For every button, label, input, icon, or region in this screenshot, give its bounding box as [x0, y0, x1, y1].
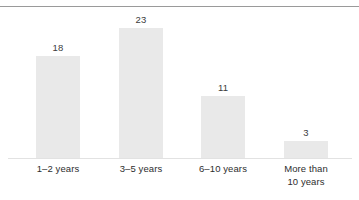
bar-3-5-years[interactable] — [119, 28, 163, 158]
category-label-1-2-years: 1–2 years — [12, 163, 104, 176]
bar-group-3-5-years: 23 — [100, 0, 182, 159]
category-label-line-1: 6–10 years — [199, 163, 247, 174]
bar-more-than-10-years[interactable] — [284, 141, 328, 158]
category-label-3-5-years: 3–5 years — [95, 163, 187, 176]
category-label-line-1: More than — [284, 163, 328, 174]
category-label-6-10-years: 6–10 years — [177, 163, 269, 176]
category-label-line-1: 1–2 years — [37, 163, 80, 174]
bar-group-6-10-years: 11 — [182, 0, 264, 159]
bar-group-1-2-years: 18 — [17, 0, 99, 159]
bar-6-10-years[interactable] — [201, 96, 245, 158]
x-axis-baseline — [8, 158, 352, 159]
value-label-more-than-10-years: 3 — [265, 127, 347, 138]
bar-chart-figure: 18 23 11 3 1–2 years 3–5 years 6–10 year… — [0, 0, 359, 200]
bars-container: 18 23 11 3 — [0, 0, 359, 159]
category-label-line-2: 10 years — [260, 176, 352, 189]
bar-1-2-years[interactable] — [36, 56, 80, 158]
value-label-3-5-years: 23 — [100, 14, 182, 25]
category-label-line-1: 3–5 years — [120, 163, 163, 174]
value-label-1-2-years: 18 — [17, 42, 99, 53]
bar-group-more-than-10-years: 3 — [265, 0, 347, 159]
value-label-6-10-years: 11 — [182, 82, 264, 93]
category-label-more-than-10-years: More than 10 years — [260, 163, 352, 188]
category-axis-labels: 1–2 years 3–5 years 6–10 years More than… — [0, 163, 359, 200]
